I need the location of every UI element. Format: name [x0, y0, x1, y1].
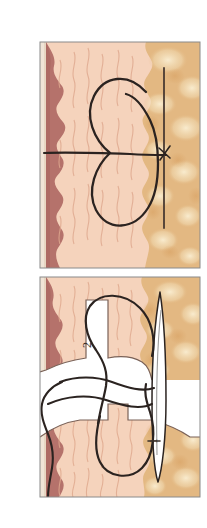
suture-illustration: 2 1 — [0, 0, 207, 528]
panel-top — [40, 42, 207, 268]
label-2: 2 — [80, 342, 94, 348]
epidermis-inner-top — [44, 42, 46, 268]
figure-root: 2 1 — [0, 0, 207, 528]
epidermis-top — [40, 42, 44, 268]
panel-bottom — [40, 277, 207, 500]
label-1: 1 — [147, 438, 159, 444]
